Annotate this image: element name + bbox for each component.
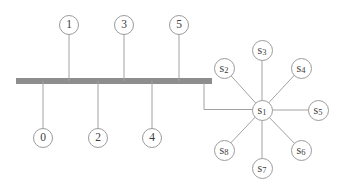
node-s7: s7 xyxy=(252,158,273,179)
node-1: 1 xyxy=(59,15,79,35)
topology-diagram: 1 3 5 0 2 4 s1 s2 s3 s4 s5 s6 s7 s8 xyxy=(0,0,346,189)
node-s8: s8 xyxy=(214,140,235,161)
node-0: 0 xyxy=(33,128,53,148)
node-label: 5 xyxy=(176,19,182,31)
node-label: 1 xyxy=(66,19,72,31)
node-label: s6 xyxy=(297,144,306,156)
node-2: 2 xyxy=(88,128,108,148)
node-label: s4 xyxy=(297,62,306,74)
bus-bar xyxy=(16,78,212,84)
node-label: 0 xyxy=(40,132,46,144)
node-s6: s6 xyxy=(291,140,312,161)
node-4: 4 xyxy=(142,128,162,148)
node-label: 4 xyxy=(149,132,155,144)
node-5: 5 xyxy=(169,15,189,35)
node-label: 3 xyxy=(121,19,127,31)
node-label: s2 xyxy=(220,62,229,74)
node-s4: s4 xyxy=(291,58,312,79)
node-label: s1 xyxy=(258,104,267,116)
node-s5: s5 xyxy=(308,100,329,121)
node-label: s7 xyxy=(258,162,267,174)
node-s2: s2 xyxy=(214,58,235,79)
node-s1-hub: s1 xyxy=(252,100,273,121)
node-label: s5 xyxy=(314,104,323,116)
node-s3: s3 xyxy=(252,40,273,61)
node-label: 2 xyxy=(95,132,101,144)
node-label: s3 xyxy=(258,44,267,56)
node-label: s8 xyxy=(220,144,229,156)
node-3: 3 xyxy=(114,15,134,35)
